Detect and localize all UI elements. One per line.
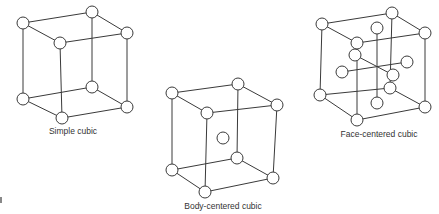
corner-atom	[56, 112, 68, 124]
lattice-edge	[322, 13, 392, 24]
corner-atom	[166, 87, 178, 99]
corner-atom	[316, 18, 328, 30]
corner-atom	[351, 37, 363, 49]
lattice-edge	[320, 95, 357, 120]
simple-cubic-label: Simple cubic	[49, 126, 97, 136]
body-centered-cubic-label: Body-centered cubic	[184, 201, 262, 211]
lattice-edge	[205, 113, 207, 192]
corner-atom	[419, 27, 431, 39]
simple-cubic-lattice	[17, 6, 133, 124]
corner-atom	[351, 114, 363, 126]
body-center-atom	[217, 132, 229, 144]
corner-atom	[384, 82, 396, 94]
lattice-edge	[357, 107, 425, 120]
face-center-atom	[371, 22, 383, 34]
lattice-edge	[172, 158, 237, 170]
lattice-edge	[205, 178, 273, 192]
face-center-atom	[336, 66, 348, 78]
page-margin-mark	[0, 197, 2, 203]
lattice-edge	[62, 107, 127, 118]
corner-atom	[54, 37, 66, 49]
lattice-edge	[172, 84, 238, 93]
lattice-edge	[237, 84, 238, 158]
corner-atom	[271, 99, 283, 111]
corner-atom	[86, 6, 98, 18]
corner-atom	[86, 81, 98, 93]
lattice-edge	[320, 88, 390, 95]
face-centered-cubic-lattice	[314, 7, 431, 126]
corner-atom	[121, 27, 133, 39]
face-center-atom	[387, 69, 399, 81]
face-center-atom	[349, 49, 361, 61]
corner-atom	[419, 101, 431, 113]
face-center-atom	[401, 56, 413, 68]
corner-atom	[267, 172, 279, 184]
corner-atom	[166, 164, 178, 176]
corner-atom	[17, 17, 29, 29]
corner-atom	[201, 107, 213, 119]
corner-atom	[121, 101, 133, 113]
face-center-atom	[371, 97, 383, 109]
lattice-diagram	[0, 0, 439, 214]
lattice-edge	[23, 87, 92, 99]
corner-atom	[231, 152, 243, 164]
lattice-edge	[23, 12, 92, 23]
corner-atom	[386, 7, 398, 19]
lattice-edge	[60, 33, 127, 43]
face-centered-cubic-label: Face-centered cubic	[340, 129, 417, 139]
body-centered-cubic-lattice	[166, 78, 283, 198]
corner-atom	[199, 186, 211, 198]
corner-atom	[17, 93, 29, 105]
corner-atom	[314, 89, 326, 101]
lattice-edge	[238, 84, 277, 105]
lattice-edge	[320, 24, 322, 95]
lattice-edge	[273, 105, 277, 178]
lattice-edge	[60, 43, 62, 118]
lattice-edge	[207, 105, 277, 113]
corner-atom	[232, 78, 244, 90]
lattice-edge	[23, 99, 62, 118]
